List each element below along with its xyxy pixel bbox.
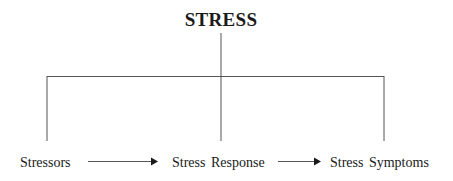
node-stress-symptoms: Stress Symptoms: [330, 155, 429, 171]
arrowhead-2-icon: [314, 158, 321, 166]
connector-lines: [0, 0, 453, 181]
arrowhead-1-icon: [151, 158, 158, 166]
node-stressors: Stressors: [20, 155, 71, 171]
node-stress-response: Stress Response: [172, 155, 265, 171]
